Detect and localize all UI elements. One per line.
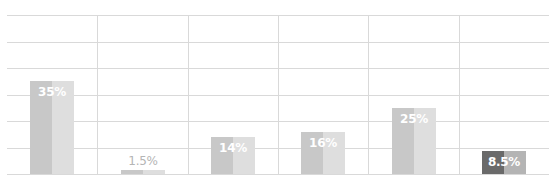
bar: 14% — [211, 137, 255, 174]
bar-chart: 35%1.5%14%16%25%8.5% — [0, 0, 552, 184]
gridline-vertical — [368, 15, 369, 174]
gridline-horizontal — [7, 174, 549, 175]
bar: 35% — [30, 81, 74, 174]
bar-value-label: 25% — [392, 112, 436, 126]
bar-value-label: 16% — [301, 136, 345, 150]
gridline-vertical — [97, 15, 98, 174]
gridline-vertical — [278, 15, 279, 174]
gridline-vertical — [459, 15, 460, 174]
bar-value-label: 1.5% — [121, 154, 165, 168]
gridline-vertical — [188, 15, 189, 174]
bar-value-label: 35% — [30, 85, 74, 99]
bar-value-label: 8.5% — [482, 155, 526, 169]
bar: 1.5% — [121, 170, 165, 174]
bar: 25% — [392, 108, 436, 174]
bar: 16% — [301, 132, 345, 174]
bar: 8.5% — [482, 151, 526, 174]
bar-value-label: 14% — [211, 141, 255, 155]
